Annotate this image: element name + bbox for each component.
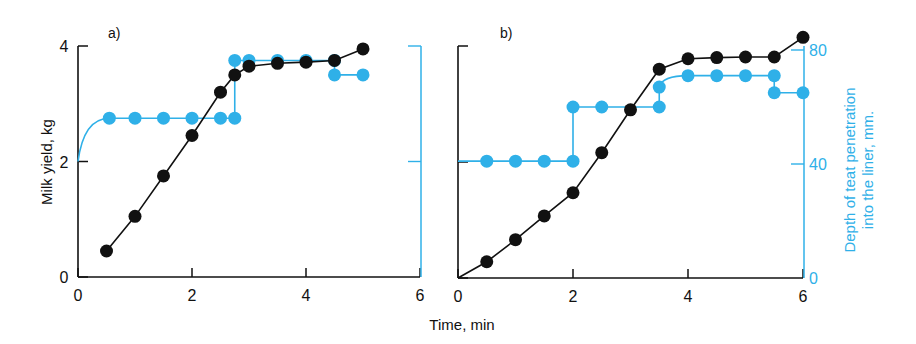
depth-marker — [214, 112, 227, 125]
depth-marker — [567, 155, 580, 168]
milk-yield-marker — [595, 146, 608, 159]
y-axis-label-left: Milk yield, kg — [38, 119, 55, 205]
depth-marker — [538, 155, 551, 168]
depth-marker — [653, 81, 666, 94]
depth-marker — [768, 86, 781, 99]
milk-yield-marker — [509, 233, 522, 246]
milk-yield-marker — [653, 63, 666, 76]
x-axis-label: Time, min — [429, 316, 494, 333]
milk-yield-marker — [243, 60, 256, 73]
figure: a)0240246 b)024604080 Time, min Milk yie… — [0, 0, 916, 344]
y2-tick-label: 80 — [809, 42, 827, 59]
milk-yield-marker — [538, 209, 551, 222]
depth-marker — [595, 101, 608, 114]
depth-marker — [797, 86, 810, 99]
y-tick-label: 2 — [60, 154, 69, 171]
milk-yield-marker — [682, 52, 695, 65]
x-tick-label: 4 — [302, 287, 311, 304]
depth-line — [458, 76, 803, 161]
depth-marker — [567, 101, 580, 114]
x-tick-label: 2 — [188, 287, 197, 304]
panel-b: b)024604080 — [454, 25, 827, 305]
depth-marker — [739, 69, 752, 82]
milk-yield-marker — [271, 57, 284, 70]
x-tick-label: 2 — [569, 288, 578, 305]
depth-marker — [228, 112, 241, 125]
x-tick-label: 6 — [799, 288, 808, 305]
milk-yield-marker — [797, 31, 810, 44]
depth-marker — [228, 54, 241, 67]
milk-yield-marker — [480, 255, 493, 268]
y-tick-label: 0 — [60, 269, 69, 286]
depth-marker — [682, 69, 695, 82]
milk-yield-marker — [157, 169, 170, 182]
depth-marker — [768, 69, 781, 82]
y-axis-label-right-line2: into the liner, mm. — [859, 111, 876, 229]
depth-marker — [157, 112, 170, 125]
y2-tick-label: 40 — [809, 156, 827, 173]
panel-a: a)0240246 — [60, 25, 425, 304]
milk-yield-marker — [100, 245, 113, 258]
y2-tick-label: 0 — [809, 270, 818, 287]
depth-marker — [103, 112, 116, 125]
milk-yield-marker — [328, 54, 341, 67]
depth-marker — [328, 68, 341, 81]
depth-marker — [509, 155, 522, 168]
milk-yield-marker — [129, 210, 142, 223]
milk-yield-marker — [186, 129, 199, 142]
depth-marker — [186, 112, 199, 125]
x-tick-label: 0 — [454, 288, 463, 305]
x-tick-label: 6 — [416, 287, 425, 304]
milk-yield-marker — [214, 86, 227, 99]
milk-yield-marker — [710, 51, 723, 64]
y-axis-label-right-line1: Depth of teat penetration — [841, 87, 858, 252]
milk-yield-marker — [624, 103, 637, 116]
panel-title: a) — [108, 25, 120, 41]
depth-marker — [129, 112, 142, 125]
milk-yield-marker — [567, 186, 580, 199]
depth-marker — [653, 101, 666, 114]
x-tick-label: 0 — [74, 287, 83, 304]
panel-title: b) — [500, 25, 512, 41]
milk-yield-marker — [357, 42, 370, 55]
milk-yield-marker — [228, 68, 241, 81]
x-tick-label: 4 — [684, 288, 693, 305]
milk-yield-marker — [300, 56, 313, 69]
depth-marker — [480, 155, 493, 168]
y-tick-label: 4 — [60, 38, 69, 55]
depth-marker — [357, 68, 370, 81]
milk-yield-marker — [739, 51, 752, 64]
depth-marker — [710, 69, 723, 82]
milk-yield-marker — [768, 51, 781, 64]
depth-line — [78, 60, 363, 161]
